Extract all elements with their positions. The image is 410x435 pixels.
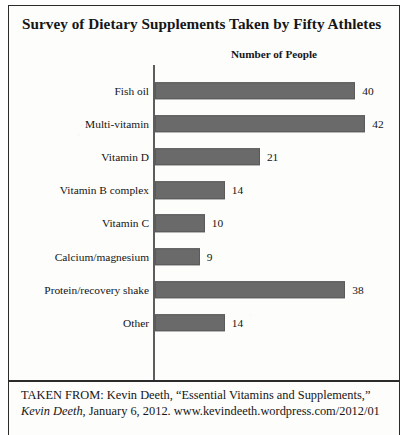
bar-category-label: Multi-vitamin (85, 118, 149, 130)
bar-fill (155, 181, 225, 199)
bar-value-label: 42 (372, 118, 383, 130)
bar-value-label: 9 (207, 251, 213, 263)
bar-row: Calcium/magnesium9 (9, 240, 400, 273)
bar-value-label: 14 (232, 317, 243, 329)
bar-row: Multi-vitamin42 (9, 107, 400, 140)
bar-fill (155, 314, 225, 332)
bar (155, 281, 346, 299)
bar-fill (155, 215, 205, 233)
citation-source-name: Kevin Deeth (21, 404, 83, 418)
bar-category-label: Protein/recovery shake (44, 284, 149, 296)
bar (155, 248, 200, 266)
bar (155, 181, 225, 199)
bar-category-label: Fish oil (114, 85, 149, 97)
bar-category-label: Other (123, 317, 149, 329)
bar-fill (155, 248, 200, 266)
bar-row: Other14 (9, 306, 400, 339)
bar-fill (155, 115, 366, 133)
bar-row: Fish oil40 (9, 74, 400, 107)
bar-row: Protein/recovery shake38 (9, 273, 400, 306)
bar-fill (155, 82, 356, 100)
bar-value-label: 14 (232, 184, 243, 196)
bar-fill (155, 281, 346, 299)
bar-category-label: Vitamin D (101, 151, 149, 163)
bar-value-label: 21 (267, 151, 278, 163)
bar-chart: Number of People Fish oil40Multi-vitamin… (9, 48, 400, 378)
bar-value-label: 10 (212, 217, 223, 229)
citation-line-2: , January 6, 2012. www.kevindeeth.wordpr… (83, 404, 380, 418)
bar-category-label: Calcium/magnesium (55, 251, 149, 263)
bar (155, 148, 260, 166)
bar-fill (155, 148, 260, 166)
bar-category-label: Vitamin C (102, 217, 149, 229)
bar (155, 82, 356, 100)
bar-row: Vitamin B complex14 (9, 174, 400, 207)
bar (155, 215, 205, 233)
bar-row: Vitamin D21 (9, 140, 400, 173)
figure-frame: Survey of Dietary Supplements Taken by F… (8, 5, 400, 435)
bar-series: Fish oil40Multi-vitamin42Vitamin D21Vita… (9, 74, 400, 340)
footer-divider (9, 380, 400, 382)
bar (155, 115, 366, 133)
bar-category-label: Vitamin B complex (60, 184, 149, 196)
source-citation: TAKEN FROM: Kevin Deeth, “Essential Vita… (21, 388, 393, 420)
bar-value-label: 40 (362, 85, 373, 97)
citation-line-1: TAKEN FROM: Kevin Deeth, “Essential Vita… (21, 388, 370, 402)
page-title: Survey of Dietary Supplements Taken by F… (22, 15, 392, 32)
chart-axis-caption: Number of People (199, 48, 349, 60)
bar-row: Vitamin C10 (9, 207, 400, 240)
bar (155, 314, 225, 332)
bar-value-label: 38 (352, 284, 363, 296)
